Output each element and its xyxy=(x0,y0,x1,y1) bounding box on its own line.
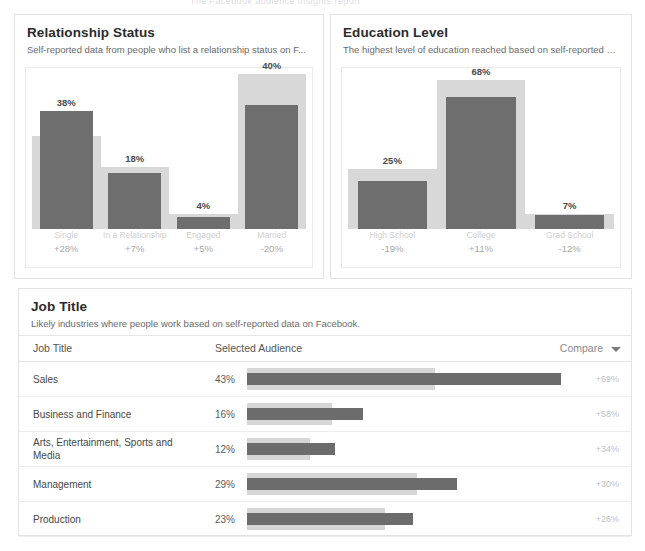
x-axis-tick: High School-19% xyxy=(348,229,437,256)
table-row[interactable]: Business and Finance16%+58% xyxy=(19,396,631,432)
selected-audience-bar xyxy=(247,373,561,385)
audience-percent-cell: 43% xyxy=(215,373,235,384)
education-level-card: Education Level The highest level of edu… xyxy=(330,14,632,279)
audience-bar-cell xyxy=(247,403,561,425)
job-card-subtitle: Likely industries where people work base… xyxy=(31,318,619,329)
education-card-subtitle: The highest level of education reached b… xyxy=(343,44,619,55)
audience-percent-cell: 12% xyxy=(215,443,235,454)
bar-value-label: 18% xyxy=(101,153,170,164)
selected-audience-bar xyxy=(245,105,298,229)
x-axis-category-label: High School xyxy=(348,229,437,242)
selected-audience-bar xyxy=(358,181,427,229)
column-header-compare[interactable]: Compare xyxy=(560,342,603,354)
chevron-down-icon[interactable] xyxy=(611,347,621,352)
compare-delta-cell: +34% xyxy=(596,444,619,454)
education-plot-area: 25%68%7% xyxy=(348,74,614,229)
selected-audience-bar xyxy=(177,217,230,229)
x-axis-category-label: Engaged xyxy=(169,229,238,242)
x-axis-category-label: Single xyxy=(32,229,101,242)
compare-delta-cell: +69% xyxy=(596,374,619,384)
selected-audience-bar xyxy=(247,478,457,490)
clipped-header-strip: The Facebook audience insights report xyxy=(0,0,645,13)
x-axis-category-label: Grad School xyxy=(525,229,614,242)
x-axis-category-label: College xyxy=(437,229,526,242)
x-axis-tick: College+11% xyxy=(437,229,526,256)
job-title-card: Job Title Likely industries where people… xyxy=(18,288,632,536)
job-table-header: Job Title Selected Audience Compare xyxy=(19,335,631,362)
x-axis-delta-label: +7% xyxy=(101,242,170,256)
relationship-card-subtitle: Self-reported data from people who list … xyxy=(27,44,311,55)
compare-delta-cell: +30% xyxy=(596,479,619,489)
x-axis-delta-label: -19% xyxy=(348,242,437,256)
x-axis-delta-label: -12% xyxy=(525,242,614,256)
audience-percent-cell: 29% xyxy=(215,478,235,489)
relationship-plot-area: 38%18%4%40% xyxy=(32,74,306,229)
selected-audience-bar xyxy=(247,408,363,420)
bar-value-label: 4% xyxy=(169,200,238,211)
selected-audience-bar xyxy=(247,443,335,455)
x-axis-tick: In a Relationship+7% xyxy=(101,229,170,256)
audience-bar-cell xyxy=(247,438,561,460)
compare-delta-cell: +58% xyxy=(596,409,619,419)
bar-value-label: 7% xyxy=(525,200,614,211)
x-axis-delta-label: +5% xyxy=(169,242,238,256)
selected-audience-bar xyxy=(40,111,93,229)
education-x-axis: High School-19%College+11%Grad School-12… xyxy=(348,229,614,263)
bar-group: 25% xyxy=(348,74,437,229)
x-axis-delta-label: +11% xyxy=(437,242,526,256)
relationship-x-axis: Single+28%In a Relationship+7%Engaged+5%… xyxy=(32,229,306,263)
x-axis-tick: Grad School-12% xyxy=(525,229,614,256)
audience-percent-cell: 23% xyxy=(215,513,235,524)
audience-percent-cell: 16% xyxy=(215,408,235,419)
bar-group: 18% xyxy=(101,74,170,229)
relationship-card-title: Relationship Status xyxy=(27,25,311,40)
selected-audience-bar xyxy=(446,97,515,229)
bar-group: 68% xyxy=(437,74,526,229)
bar-group: 7% xyxy=(525,74,614,229)
education-card-header: Education Level The highest level of edu… xyxy=(331,15,631,63)
bar-group: 40% xyxy=(238,74,307,229)
audience-bar-cell xyxy=(247,508,561,530)
selected-audience-bar xyxy=(535,215,604,229)
job-title-cell: Sales xyxy=(33,372,188,385)
bar-value-label: 40% xyxy=(238,60,307,71)
x-axis-tick: Engaged+5% xyxy=(169,229,238,256)
relationship-card-header: Relationship Status Self-reported data f… xyxy=(15,15,323,63)
clipped-header-text: The Facebook audience insights report xyxy=(190,0,360,6)
x-axis-category-label: In a Relationship xyxy=(101,229,170,242)
selected-audience-bar xyxy=(108,173,161,229)
relationship-status-card: Relationship Status Self-reported data f… xyxy=(14,14,324,279)
x-axis-category-label: Married xyxy=(238,229,307,242)
bar-value-label: 68% xyxy=(437,66,526,77)
audience-bar-cell xyxy=(247,473,561,495)
job-title-cell: Business and Finance xyxy=(33,407,188,420)
selected-audience-bar xyxy=(247,513,413,525)
x-axis-tick: Single+28% xyxy=(32,229,101,256)
job-title-cell: Production xyxy=(33,512,188,525)
job-card-header: Job Title Likely industries where people… xyxy=(19,289,631,337)
audience-bar-cell xyxy=(247,368,561,390)
column-header-job-title[interactable]: Job Title xyxy=(33,342,72,354)
x-axis-delta-label: +28% xyxy=(32,242,101,256)
bar-value-label: 38% xyxy=(32,97,101,108)
table-row[interactable]: Management29%+30% xyxy=(19,466,631,502)
table-row[interactable]: Arts, Entertainment, Sports and Media12%… xyxy=(19,431,631,467)
table-row[interactable]: Production23%+26% xyxy=(19,501,631,537)
bar-group: 4% xyxy=(169,74,238,229)
x-axis-tick: Married-20% xyxy=(238,229,307,256)
bar-group: 38% xyxy=(32,74,101,229)
bar-value-label: 25% xyxy=(348,155,437,166)
column-header-selected-audience[interactable]: Selected Audience xyxy=(215,342,302,354)
job-title-cell: Management xyxy=(33,477,188,490)
table-row[interactable]: Sales43%+69% xyxy=(19,361,631,397)
education-card-title: Education Level xyxy=(343,25,619,40)
x-axis-delta-label: -20% xyxy=(238,242,307,256)
compare-delta-cell: +26% xyxy=(596,514,619,524)
job-card-title: Job Title xyxy=(31,299,619,314)
relationship-chart: 38%18%4%40% Single+28%In a Relationship+… xyxy=(25,67,313,268)
education-chart: 25%68%7% High School-19%College+11%Grad … xyxy=(341,67,621,268)
job-title-cell: Arts, Entertainment, Sports and Media xyxy=(33,436,188,462)
